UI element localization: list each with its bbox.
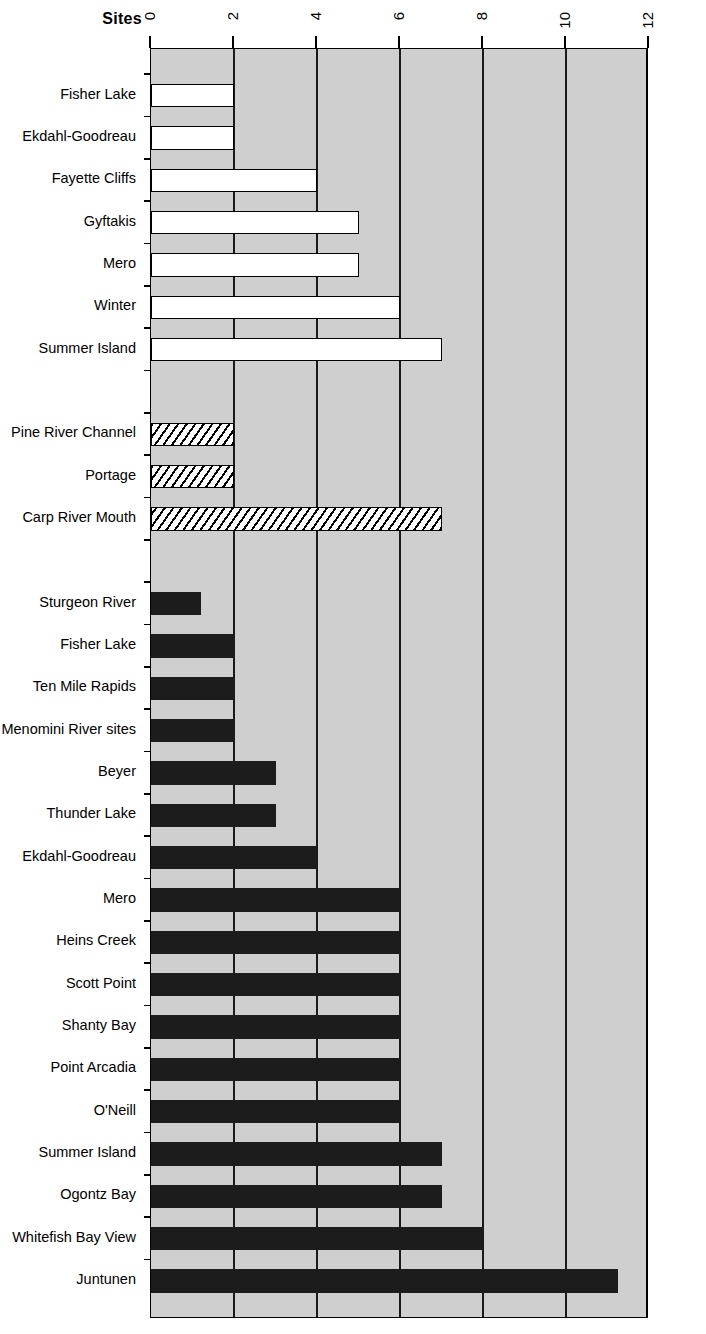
y-tick-mark (144, 793, 151, 795)
y-label-solid-3: Menomini River sites (0, 722, 142, 737)
y-tick-mark (144, 285, 151, 287)
bar-open-4 (151, 253, 359, 276)
y-label-solid-15: Whitefish Bay View (0, 1230, 142, 1245)
y-axis-title: Sites (62, 10, 142, 28)
y-tick-mark (144, 370, 151, 372)
y-tick-mark (144, 116, 151, 118)
y-label-solid-10: Shanty Bay (0, 1018, 142, 1033)
bar-solid-0 (151, 592, 201, 615)
y-tick-mark (144, 73, 151, 75)
y-label-open-3: Gyftakis (0, 214, 142, 229)
y-tick-mark (144, 708, 151, 710)
y-label-solid-8: Heins Creek (0, 933, 142, 948)
bar-hatched-2 (151, 507, 442, 530)
y-label-solid-7: Mero (0, 891, 142, 906)
bar-solid-9 (151, 973, 400, 996)
x-tick-mark-0 (149, 36, 151, 48)
y-tick-mark (144, 751, 151, 753)
bar-solid-6 (151, 846, 317, 869)
y-label-solid-14: Ogontz Bay (0, 1187, 142, 1202)
y-label-hatched-1: Portage (0, 468, 142, 483)
bar-open-2 (151, 169, 317, 192)
bar-solid-1 (151, 634, 234, 657)
y-tick-mark (144, 327, 151, 329)
bar-open-1 (151, 126, 234, 149)
y-tick-mark (144, 412, 151, 414)
x-tick-mark-8 (481, 36, 483, 48)
y-tick-mark (144, 158, 151, 160)
x-tick-mark-12 (647, 36, 649, 48)
y-label-open-0: Fisher Lake (0, 87, 142, 102)
bar-solid-2 (151, 677, 234, 700)
y-label-solid-9: Scott Point (0, 976, 142, 991)
y-label-open-1: Ekdahl-Goodreau (0, 129, 142, 144)
x-tick-label-2: 2 (220, 12, 246, 20)
y-label-hatched-2: Carp River Mouth (0, 510, 142, 525)
x-tick-label-12: 12 (635, 12, 661, 29)
y-tick-mark (144, 920, 151, 922)
y-label-open-5: Winter (0, 298, 142, 313)
y-label-solid-16: Juntunen (0, 1272, 142, 1287)
gridline-8 (482, 49, 484, 1317)
y-tick-mark (144, 497, 151, 499)
chart-title-partial (250, 0, 580, 4)
y-tick-mark (144, 1259, 151, 1261)
bar-solid-13 (151, 1142, 442, 1165)
y-tick-mark (144, 200, 151, 202)
x-tick-label-6: 6 (386, 12, 412, 20)
bar-open-5 (151, 296, 400, 319)
y-tick-mark (144, 1132, 151, 1134)
bar-chart: Sites 024681012 Fisher LakeEkdahl-Goodre… (0, 0, 706, 1334)
bar-hatched-0 (151, 423, 234, 446)
x-tick-label-8: 8 (469, 12, 495, 20)
y-tick-mark (144, 835, 151, 837)
x-tick-label-10: 10 (552, 12, 578, 29)
y-tick-mark (144, 624, 151, 626)
y-label-solid-0: Sturgeon River (0, 595, 142, 610)
y-tick-mark (144, 1005, 151, 1007)
bar-solid-16 (151, 1269, 618, 1292)
x-tick-mark-6 (398, 36, 400, 48)
bar-solid-3 (151, 719, 234, 742)
bar-hatched-1 (151, 465, 234, 488)
y-tick-mark (144, 878, 151, 880)
bar-solid-7 (151, 888, 400, 911)
bar-solid-5 (151, 804, 276, 827)
y-tick-mark (144, 581, 151, 583)
bar-open-0 (151, 84, 234, 107)
bar-solid-14 (151, 1185, 442, 1208)
y-tick-mark (144, 666, 151, 668)
bar-solid-10 (151, 1015, 400, 1038)
gridline-4 (316, 49, 318, 1317)
x-tick-mark-2 (232, 36, 234, 48)
bar-solid-4 (151, 761, 276, 784)
y-label-open-6: Summer Island (0, 341, 142, 356)
bar-open-6 (151, 338, 442, 361)
y-tick-mark (144, 962, 151, 964)
y-label-solid-11: Point Arcadia (0, 1060, 142, 1075)
gridline-10 (565, 49, 567, 1317)
x-tick-label-4: 4 (303, 12, 329, 20)
y-label-solid-1: Fisher Lake (0, 637, 142, 652)
y-tick-mark (144, 1047, 151, 1049)
bar-solid-12 (151, 1100, 400, 1123)
bar-open-3 (151, 211, 359, 234)
y-tick-mark (144, 243, 151, 245)
plot-area (150, 48, 648, 1318)
y-label-hatched-0: Pine River Channel (0, 425, 142, 440)
y-label-solid-5: Thunder Lake (0, 806, 142, 821)
x-tick-mark-4 (315, 36, 317, 48)
y-label-solid-6: Ekdahl-Goodreau (0, 849, 142, 864)
bar-solid-15 (151, 1227, 483, 1250)
gridline-6 (399, 49, 401, 1317)
x-tick-label-0: 0 (137, 12, 163, 20)
x-tick-mark-10 (564, 36, 566, 48)
y-label-solid-2: Ten Mile Rapids (0, 679, 142, 694)
y-label-open-4: Mero (0, 256, 142, 271)
y-tick-mark (144, 454, 151, 456)
y-tick-mark (144, 539, 151, 541)
bar-solid-8 (151, 931, 400, 954)
y-label-solid-12: O'Neill (0, 1103, 142, 1118)
y-tick-mark (144, 1216, 151, 1218)
y-label-solid-13: Summer Island (0, 1145, 142, 1160)
